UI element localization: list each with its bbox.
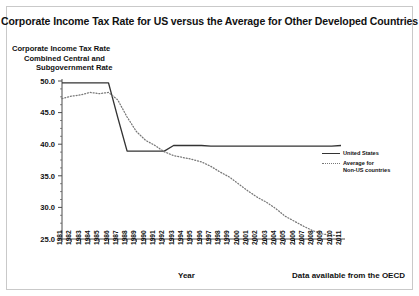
x-tick-label: 2011 <box>335 230 342 245</box>
legend-label-united-states: United States <box>343 150 379 157</box>
legend-swatch-dotted-icon <box>322 160 340 167</box>
axis-lines <box>62 79 345 239</box>
x-tick-label: 1984 <box>84 230 91 245</box>
x-tick-label: 1987 <box>112 230 119 245</box>
y-tick-label: 30.0 <box>40 203 55 212</box>
x-tick-label: 1992 <box>158 230 165 245</box>
x-tick-label: 1990 <box>140 230 147 245</box>
y-tick-label: 40.0 <box>40 140 55 149</box>
x-tick-label: 1988 <box>121 230 128 245</box>
x-tick-label: 1982 <box>65 230 72 245</box>
x-axis-label: Year <box>178 271 195 280</box>
x-tick-label: 1998 <box>214 230 221 245</box>
x-tick-label: 1989 <box>130 230 137 245</box>
y-tick-label: 50.0 <box>40 77 55 86</box>
x-tick-label: 2005 <box>279 230 286 245</box>
legend-swatch-solid-icon <box>322 150 340 157</box>
y-axis-ticks <box>58 81 62 239</box>
x-tick-label: 2009 <box>316 230 323 245</box>
x-tick-label: 2008 <box>307 230 314 245</box>
chart-legend: United States Average for Non-US countri… <box>322 150 412 177</box>
x-tick-label: 1997 <box>205 230 212 245</box>
plot-area: 1981198219831984198519861987198819891990… <box>0 0 419 296</box>
x-tick-label: 1986 <box>103 230 110 245</box>
x-tick-label: 2007 <box>298 230 305 245</box>
x-tick-label: 1981 <box>56 230 63 245</box>
x-tick-label: 2002 <box>251 230 258 245</box>
series-line-united-states <box>62 83 341 151</box>
legend-item-united-states: United States <box>322 150 412 157</box>
x-tick-label: 2006 <box>289 230 296 245</box>
y-tick-label: 35.0 <box>40 172 55 181</box>
legend-item-non-us-average: Average for Non-US countries <box>322 160 412 174</box>
x-tick-label: 1999 <box>223 230 230 245</box>
x-tick-label: 1994 <box>177 230 184 245</box>
x-tick-label: 1993 <box>168 230 175 245</box>
x-tick-label: 2003 <box>261 230 268 245</box>
x-tick-label: 1985 <box>93 230 100 245</box>
x-tick-label: 1996 <box>196 230 203 245</box>
x-tick-label: 1995 <box>186 230 193 245</box>
source-note: Data available from the OECD <box>292 271 405 280</box>
x-tick-label: 1983 <box>75 230 82 245</box>
y-tick-label: 45.0 <box>40 108 55 117</box>
data-series-group <box>62 83 341 236</box>
chart-figure: Corporate Income Tax Rate for US versus … <box>0 0 419 296</box>
series-line-non-us-average <box>62 92 341 235</box>
x-tick-label: 2001 <box>242 230 249 245</box>
x-tick-label: 2000 <box>233 230 240 245</box>
legend-label-non-us-average: Average for Non-US countries <box>343 160 390 174</box>
y-tick-label: 25.0 <box>40 235 55 244</box>
x-axis-tick-labels: 1981198219831984198519861987198819891990… <box>56 230 342 245</box>
x-tick-label: 2004 <box>270 230 277 245</box>
x-tick-label: 2010 <box>326 230 333 245</box>
x-tick-label: 1991 <box>149 230 156 245</box>
